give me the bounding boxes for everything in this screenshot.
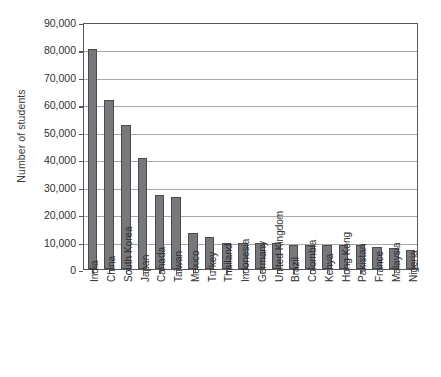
y-axis-tick-label: 70,000 bbox=[26, 73, 76, 83]
x-axis-tick-label-text: India bbox=[90, 260, 100, 282]
bar bbox=[104, 100, 113, 269]
x-axis-tick-label-text: Colombia bbox=[308, 240, 318, 282]
y-axis-tick-mark bbox=[79, 161, 83, 162]
x-axis-tick-label-text: Turkey bbox=[207, 252, 217, 282]
y-axis-tick-label: 0 bbox=[26, 265, 76, 275]
y-axis-tick-label: 20,000 bbox=[26, 210, 76, 220]
x-axis-tick-label-text: South Korea bbox=[123, 226, 133, 282]
y-axis-tick-mark bbox=[79, 79, 83, 80]
x-axis-tick-label-text: Mexico bbox=[190, 250, 200, 282]
bar-series bbox=[84, 24, 417, 269]
y-axis-tick-label: 40,000 bbox=[26, 155, 76, 165]
y-axis-tick-mark bbox=[79, 106, 83, 107]
x-axis-tick-label-text: Kenya bbox=[324, 254, 334, 282]
bar-chart-figure: Number of students 90,00080,00070,00060,… bbox=[0, 0, 441, 377]
y-axis-tick-label: 10,000 bbox=[26, 238, 76, 248]
y-axis-tick-mark bbox=[79, 244, 83, 245]
x-axis-tick-label-text: Germany bbox=[257, 241, 267, 282]
x-axis-tick-label-text: Brazil bbox=[291, 257, 301, 282]
bar bbox=[88, 49, 97, 269]
y-axis-tick-label: 90,000 bbox=[26, 18, 76, 28]
y-axis-tick-labels: 90,00080,00070,00060,00050,00040,00030,0… bbox=[26, 18, 76, 270]
x-axis-tick-label: Nigeria bbox=[410, 272, 441, 288]
x-axis-tick-label-text: Nigeria bbox=[408, 250, 418, 282]
y-axis-tick-mark bbox=[79, 24, 83, 25]
x-axis-tick-label-text: Thailand bbox=[224, 244, 234, 282]
y-axis-tick-label: 50,000 bbox=[26, 128, 76, 138]
y-axis-tick-label: 60,000 bbox=[26, 100, 76, 110]
y-axis-tick-mark bbox=[79, 189, 83, 190]
y-axis-tick-mark bbox=[79, 134, 83, 135]
x-axis-tick-label-text: Indonesia bbox=[241, 239, 251, 282]
y-axis-tick-label: 80,000 bbox=[26, 45, 76, 55]
x-axis-tick-label-text: Taiwan bbox=[174, 251, 184, 282]
x-axis-tick-label-text: Canada bbox=[157, 247, 167, 282]
x-axis-tick-label-text: China bbox=[107, 256, 117, 282]
x-axis-tick-labels: IndiaChinaSouth KoreaJapanCanadaTaiwanMe… bbox=[83, 272, 418, 360]
y-axis-tick-label: 30,000 bbox=[26, 183, 76, 193]
x-axis-tick-label-text: Pakistan bbox=[358, 244, 368, 282]
x-axis-tick-label-text: France bbox=[375, 251, 385, 282]
x-axis-tick-label-text: Malaysia bbox=[391, 243, 401, 282]
y-axis-tick-mark bbox=[79, 51, 83, 52]
bar bbox=[138, 158, 147, 269]
x-axis-tick-label-text: Hong Kong bbox=[341, 232, 351, 282]
x-axis-tick-label-text: United Kingdom bbox=[274, 211, 284, 282]
x-axis-tick-label-text: Japan bbox=[140, 255, 150, 282]
y-axis-tick-mark bbox=[79, 216, 83, 217]
